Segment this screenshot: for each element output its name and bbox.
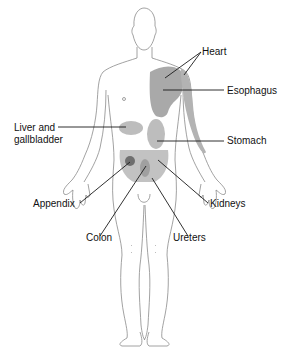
label-heart: Heart — [202, 46, 226, 57]
label-ureters: Ureters — [173, 232, 206, 243]
stomach-area — [147, 119, 165, 149]
heart-area — [150, 66, 184, 117]
pain-areas — [119, 66, 206, 182]
liver-area — [119, 121, 143, 135]
label-stomach: Stomach — [227, 135, 266, 146]
body-diagram — [0, 0, 288, 353]
label-liver-line1: Liver and — [14, 122, 55, 133]
arm-area — [181, 68, 206, 153]
label-esophagus: Esophagus — [227, 85, 277, 96]
label-appendix: Appendix — [33, 198, 75, 209]
label-kidneys: Kidneys — [210, 198, 246, 209]
label-liver-line2: gallbladder — [14, 134, 63, 145]
label-colon: Colon — [86, 232, 112, 243]
